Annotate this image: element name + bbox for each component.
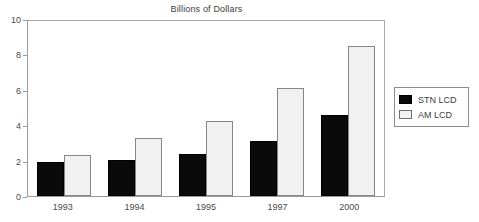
plot-area bbox=[27, 20, 385, 197]
legend-item: STN LCD bbox=[399, 92, 464, 107]
y-tick-label: 8 bbox=[16, 51, 21, 60]
x-tick-label: 2000 bbox=[313, 199, 385, 217]
legend-label: STN LCD bbox=[418, 95, 457, 105]
bar bbox=[250, 141, 277, 196]
bar bbox=[135, 138, 162, 196]
bar bbox=[108, 160, 135, 196]
bar-group bbox=[313, 21, 384, 196]
chart-title: Billions of Dollars bbox=[27, 4, 386, 15]
x-tick-label: 1993 bbox=[27, 199, 99, 217]
bar-group bbox=[99, 21, 170, 196]
bar bbox=[206, 121, 233, 196]
legend-swatch-icon bbox=[399, 110, 412, 119]
y-tick-label: 0 bbox=[16, 193, 21, 202]
bar bbox=[179, 154, 206, 196]
legend-item: AM LCD bbox=[399, 107, 464, 122]
bar-group bbox=[170, 21, 241, 196]
y-tick-label: 6 bbox=[16, 86, 21, 95]
bar-group bbox=[242, 21, 313, 196]
bar-group bbox=[28, 21, 99, 196]
bar bbox=[277, 88, 304, 196]
x-tick-label: 1997 bbox=[242, 199, 314, 217]
legend-label: AM LCD bbox=[418, 110, 452, 120]
plot-inner bbox=[28, 21, 384, 196]
bar-chart-figure: Billions of Dollars 0246810 199319941995… bbox=[0, 0, 479, 222]
x-axis: 19931994199519972000 bbox=[27, 199, 385, 217]
y-tick-label: 10 bbox=[11, 16, 21, 25]
x-tick-label: 1994 bbox=[99, 199, 171, 217]
bar bbox=[37, 162, 64, 197]
y-tick-mark bbox=[23, 197, 27, 198]
y-axis: 0246810 bbox=[0, 20, 24, 197]
y-tick-label: 4 bbox=[16, 122, 21, 131]
bar bbox=[348, 46, 375, 196]
bar-groups bbox=[28, 21, 384, 196]
chart-legend: STN LCDAM LCD bbox=[394, 87, 469, 127]
bar bbox=[321, 115, 348, 196]
legend-swatch-icon bbox=[399, 95, 412, 104]
bar bbox=[64, 155, 91, 196]
y-tick-label: 2 bbox=[16, 157, 21, 166]
x-tick-label: 1995 bbox=[170, 199, 242, 217]
